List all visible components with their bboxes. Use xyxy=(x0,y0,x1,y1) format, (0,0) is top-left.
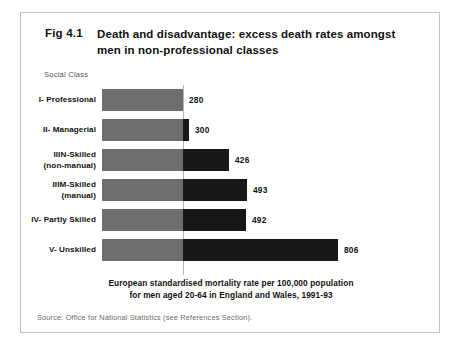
bar-excess-segment xyxy=(183,239,338,261)
bar-excess-segment xyxy=(183,209,246,231)
bar-excess-segment xyxy=(183,179,247,201)
bar-base-segment xyxy=(102,119,183,141)
bar-value-label: 300 xyxy=(195,125,209,135)
bar-base-segment xyxy=(102,89,183,111)
bar-row: IV- Partly Skilled 492 xyxy=(21,205,441,235)
bar-row: II- Managerial 300 xyxy=(21,115,441,145)
source-note: Source: Office for National Statistics (… xyxy=(37,313,252,322)
bar-category-label: V- Unskilled xyxy=(0,245,96,256)
bar-base-segment xyxy=(102,239,183,261)
bar-row: IIIM-Skilled (manual) 493 xyxy=(21,175,441,205)
bar-row: I- Professional 280 xyxy=(21,85,441,115)
bar-base-segment xyxy=(102,179,183,201)
page-title: Death and disadvantage: excess death rat… xyxy=(97,27,417,58)
bar-row: V- Unskilled 806 xyxy=(21,235,441,265)
figure-number: Fig 4.1 xyxy=(45,27,97,39)
bar-category-label: IIIM-Skilled (manual) xyxy=(0,180,96,201)
bar-value-label: 492 xyxy=(252,215,266,225)
chart-plot-area: I- Professional 280 II- Managerial 300 I… xyxy=(21,85,441,275)
caption-line-1: European standardised mortality rate per… xyxy=(51,278,411,290)
bar-base-segment xyxy=(102,149,183,171)
bar-category-label: II- Managerial xyxy=(0,125,96,136)
bar-excess-segment xyxy=(183,119,189,141)
caption-line-2: for men aged 20-64 in England and Wales,… xyxy=(51,290,411,302)
figure-frame: Fig 4.1 Death and disadvantage: excess d… xyxy=(20,12,440,333)
bar-category-label: IV- Partly Skilled xyxy=(0,215,96,226)
bar-category-label: IIIN-Skilled (non-manual) xyxy=(0,150,96,171)
y-axis-label: Social Class xyxy=(44,70,88,79)
figure-title-row: Fig 4.1 Death and disadvantage: excess d… xyxy=(45,27,417,58)
bar-value-label: 493 xyxy=(253,185,267,195)
bar-row: IIIN-Skilled (non-manual) 426 xyxy=(21,145,441,175)
bar-category-label: I- Professional xyxy=(0,95,96,106)
bar-value-label: 806 xyxy=(344,245,358,255)
bar-excess-segment xyxy=(183,149,229,171)
chart-caption: European standardised mortality rate per… xyxy=(51,278,411,301)
bar-value-label: 280 xyxy=(189,95,203,105)
bar-base-segment xyxy=(102,209,183,231)
bar-value-label: 426 xyxy=(235,155,249,165)
